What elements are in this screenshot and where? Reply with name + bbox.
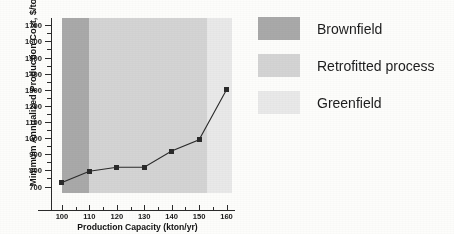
- x-tick-minor-145: [185, 207, 186, 211]
- y-tick-900: [45, 154, 51, 155]
- legend-swatch-greenfield: [258, 91, 300, 114]
- y-tick-minor-1150: [47, 114, 51, 115]
- x-tick-110: [89, 205, 90, 211]
- band-greenfield: [207, 18, 232, 193]
- x-tick-150: [199, 205, 200, 211]
- x-tick-minor-105: [76, 207, 77, 211]
- band-retrofitted-process: [89, 18, 207, 193]
- y-tick-label-1400: 1400: [16, 70, 42, 79]
- y-tick-label-800: 800: [16, 166, 42, 175]
- y-tick-1400: [45, 74, 51, 75]
- x-tick-120: [117, 205, 118, 211]
- y-axis-line: [51, 18, 52, 211]
- x-tick-label-160: 160: [214, 212, 240, 221]
- x-tick-minor-135: [158, 207, 159, 211]
- x-tick-label-150: 150: [186, 212, 212, 221]
- data-point-100: [59, 180, 64, 185]
- x-tick-label-110: 110: [76, 212, 102, 221]
- x-tick-minor-115: [103, 207, 104, 211]
- legend-item-brownfield: Brownfield: [258, 10, 454, 47]
- y-tick-800: [45, 170, 51, 171]
- x-axis-title: Production Capacity (kton/yr): [30, 222, 245, 232]
- x-tick-label-130: 130: [131, 212, 157, 221]
- y-tick-label-1000: 1000: [16, 134, 42, 143]
- data-point-150: [197, 137, 202, 142]
- x-tick-minor-125: [131, 207, 132, 211]
- y-tick-1200: [45, 106, 51, 107]
- x-tick-label-100: 100: [49, 212, 75, 221]
- x-tick-140: [172, 205, 173, 211]
- y-tick-1300: [45, 90, 51, 91]
- legend-label-retrofitted-process: Retrofitted process: [317, 58, 435, 74]
- y-tick-minor-750: [47, 178, 51, 179]
- y-tick-label-1100: 1100: [16, 118, 42, 127]
- y-tick-label-700: 700: [16, 183, 42, 192]
- band-brownfield: [62, 18, 89, 193]
- chart-legend: Brownfield Retrofitted process Greenfiel…: [258, 10, 454, 121]
- legend-swatch-retrofitted-process: [258, 54, 300, 77]
- y-tick-minor-1250: [47, 98, 51, 99]
- y-tick-minor-950: [47, 146, 51, 147]
- y-tick-minor-850: [47, 162, 51, 163]
- data-point-110: [87, 169, 92, 174]
- y-tick-label-900: 900: [16, 150, 42, 159]
- figure-page: Minimum Annualized Production Cost, $/to…: [0, 0, 454, 234]
- y-tick-1100: [45, 122, 51, 123]
- y-tick-label-1200: 1200: [16, 102, 42, 111]
- data-point-160: [224, 87, 229, 92]
- data-point-120: [114, 165, 119, 170]
- x-tick-130: [144, 205, 145, 211]
- chart-figure: Minimum Annualized Production Cost, $/to…: [0, 0, 250, 234]
- x-tick-160: [227, 205, 228, 211]
- data-point-140: [169, 149, 174, 154]
- y-tick-label-1500: 1500: [16, 54, 42, 63]
- y-tick-minor-1450: [47, 66, 51, 67]
- y-tick-label-1300: 1300: [16, 86, 42, 95]
- y-tick-700: [45, 187, 51, 188]
- x-tick-label-140: 140: [159, 212, 185, 221]
- y-tick-label-1600: 1600: [16, 37, 42, 46]
- y-tick-1500: [45, 58, 51, 59]
- x-axis-line: [38, 210, 235, 211]
- y-tick-1000: [45, 138, 51, 139]
- legend-swatch-brownfield: [258, 17, 300, 40]
- y-tick-minor-1550: [47, 49, 51, 50]
- y-tick-minor-1350: [47, 82, 51, 83]
- data-point-130: [142, 165, 147, 170]
- y-tick-1600: [45, 41, 51, 42]
- y-tick-minor-1650: [47, 33, 51, 34]
- legend-item-greenfield: Greenfield: [258, 84, 454, 121]
- legend-item-retrofitted-process: Retrofitted process: [258, 47, 454, 84]
- x-tick-100: [62, 205, 63, 211]
- legend-label-brownfield: Brownfield: [317, 21, 382, 37]
- legend-label-greenfield: Greenfield: [317, 95, 382, 111]
- y-tick-1700: [45, 25, 51, 26]
- y-tick-minor-1050: [47, 130, 51, 131]
- y-tick-label-1700: 1700: [16, 21, 42, 30]
- x-tick-label-120: 120: [104, 212, 130, 221]
- x-tick-minor-155: [213, 207, 214, 211]
